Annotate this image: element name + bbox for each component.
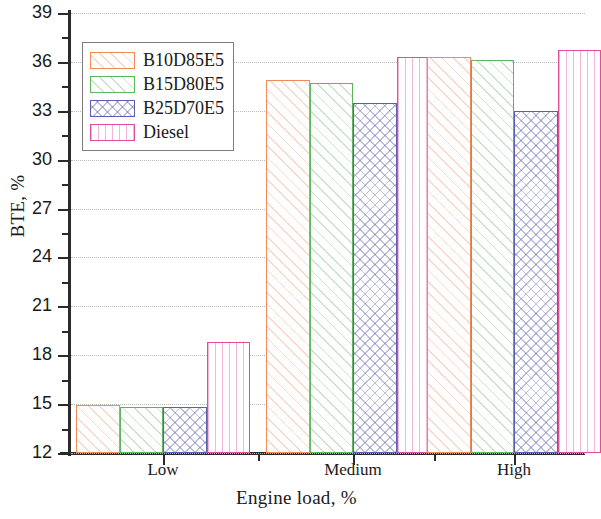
legend-label: B15D80E5 [143, 74, 224, 95]
bar [120, 407, 164, 453]
legend-item: B25D70E5 [90, 96, 224, 120]
y-tick-label: 33 [12, 100, 52, 121]
x-tick-minor [434, 455, 436, 461]
x-tick-minor [258, 455, 260, 461]
legend-label: B25D70E5 [143, 98, 224, 119]
legend-label: B10D85E5 [143, 50, 224, 71]
y-tick-major [58, 209, 71, 211]
bar [266, 80, 310, 453]
x-tick-major [163, 455, 165, 465]
y-tick-minor [62, 184, 71, 186]
bar [310, 83, 354, 453]
y-tick-label: 24 [12, 246, 52, 267]
y-tick-minor [62, 135, 71, 137]
bar [471, 60, 515, 453]
y-tick-minor [62, 429, 71, 431]
bar [353, 103, 397, 453]
x-tick-major [353, 455, 355, 465]
bar [427, 57, 471, 453]
bar [514, 111, 558, 453]
y-tick-minor [62, 380, 71, 382]
y-tick-major [58, 404, 71, 406]
y-tick-minor [62, 282, 71, 284]
y-tick-label: 36 [12, 51, 52, 72]
y-tick-label: 27 [12, 198, 52, 219]
y-tick-major [58, 62, 71, 64]
y-tick-label: 39 [12, 2, 52, 23]
y-tick-major [58, 453, 71, 455]
legend: B10D85E5B15D80E5B25D70E5Diesel [82, 42, 234, 151]
y-tick-major [58, 160, 71, 162]
legend-swatch [90, 76, 135, 93]
legend-item: B10D85E5 [90, 48, 224, 72]
gridline [71, 453, 585, 454]
y-tick-major [58, 355, 71, 357]
bar [558, 50, 601, 453]
y-tick-label: 30 [12, 149, 52, 170]
legend-item: Diesel [90, 120, 224, 144]
y-tick-label: 15 [12, 393, 52, 414]
x-axis-title: Engine load, % [0, 487, 593, 509]
legend-swatch [90, 124, 135, 141]
legend-item: B15D80E5 [90, 72, 224, 96]
y-tick-minor [62, 331, 71, 333]
y-tick-major [58, 111, 71, 113]
y-tick-major [58, 13, 71, 15]
bar [207, 342, 251, 453]
y-tick-label: 12 [12, 442, 52, 463]
y-tick-major [58, 257, 71, 259]
x-tick-major [514, 455, 516, 465]
y-tick-minor [62, 233, 71, 235]
bar [163, 407, 207, 453]
legend-swatch [90, 100, 135, 117]
y-tick-minor [62, 86, 71, 88]
legend-label: Diesel [143, 122, 189, 143]
gridline [71, 13, 585, 14]
bar [76, 405, 120, 453]
y-tick-major [58, 306, 71, 308]
y-tick-label: 18 [12, 344, 52, 365]
y-tick-minor [62, 37, 71, 39]
y-tick-label: 21 [12, 295, 52, 316]
legend-swatch [90, 52, 135, 69]
